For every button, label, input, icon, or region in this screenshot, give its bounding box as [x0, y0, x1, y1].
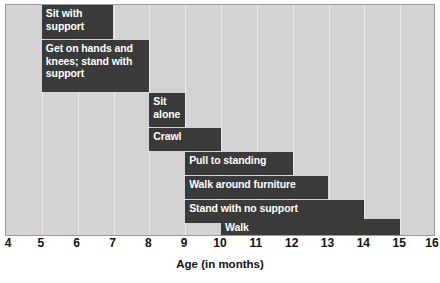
x-tick-label: 11 [249, 236, 262, 250]
milestone-bar: Crawl [149, 128, 221, 151]
x-tick-label: 8 [145, 236, 152, 250]
milestone-bar: Walk [221, 219, 400, 236]
x-tick-label: 6 [73, 236, 80, 250]
x-axis-title: Age (in months) [0, 258, 440, 270]
x-tick-label: 10 [213, 236, 226, 250]
x-tick-label: 14 [357, 236, 370, 250]
developmental-milestones-chart: Sit with supportGet on hands and knees; … [0, 0, 440, 283]
x-axis: 45678910111213141516 [5, 236, 435, 256]
gridline [400, 5, 401, 235]
x-tick-label: 7 [109, 236, 116, 250]
x-tick-label: 15 [392, 236, 405, 250]
milestone-bar: Get on hands and knees; stand with suppo… [42, 40, 150, 92]
milestone-bar: Sit alone [149, 93, 185, 127]
milestone-bar: Pull to standing [185, 152, 293, 175]
x-tick-label: 5 [37, 236, 44, 250]
x-tick-label: 16 [425, 236, 438, 250]
x-tick-label: 13 [321, 236, 334, 250]
x-tick-label: 9 [181, 236, 188, 250]
milestone-bar: Sit with support [42, 5, 114, 39]
gridline [364, 5, 365, 235]
plot-area: Sit with supportGet on hands and knees; … [5, 4, 435, 236]
x-tick-label: 4 [5, 236, 12, 250]
x-tick-label: 12 [285, 236, 298, 250]
milestone-bar: Walk around furniture [185, 176, 328, 199]
